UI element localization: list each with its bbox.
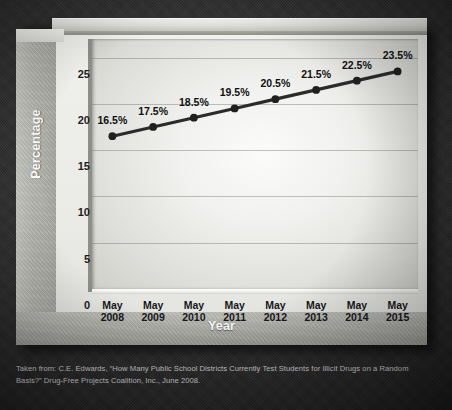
data-point-label: 22.5% [331, 60, 383, 71]
data-point-marker[interactable] [394, 68, 402, 76]
line-series [92, 39, 418, 289]
x-axis-tick-line: May [253, 299, 297, 311]
data-point-marker[interactable] [312, 86, 320, 94]
y-axis-tick-label: 20 [60, 115, 90, 126]
data-point-label: 21.5% [290, 69, 342, 80]
data-point-marker[interactable] [190, 114, 198, 122]
data-point-label: 23.5% [372, 50, 418, 61]
data-point-label: 19.5% [209, 87, 261, 98]
data-point-marker[interactable] [231, 105, 239, 113]
data-point-label: 20.5% [249, 78, 301, 89]
x-axis-tick-line: May [131, 299, 175, 311]
data-point-label: 17.5% [127, 106, 179, 117]
x-axis-title: Year [16, 319, 427, 333]
frame-left-column: Percentage [16, 42, 56, 312]
x-axis-tick-line: May [213, 299, 257, 311]
data-point-marker[interactable] [271, 95, 279, 103]
y-axis-title: Percentage [29, 84, 43, 204]
data-point-label: 18.5% [168, 97, 220, 108]
y-axis-tick-label: 5 [60, 254, 90, 265]
x-axis-tick-line: May [294, 299, 338, 311]
y-axis-tick-label: 10 [60, 207, 90, 218]
chart-card: Percentage 16.5%17.5%18.5%19.5%20.5%21.5… [16, 18, 427, 345]
data-point-label: 16.5% [92, 115, 138, 126]
frame-top-bevel [52, 18, 427, 31]
screenshot-root: Percentage 16.5%17.5%18.5%19.5%20.5%21.5… [0, 0, 452, 410]
plot-area: 16.5%17.5%18.5%19.5%20.5%21.5%22.5%23.5% [92, 39, 418, 289]
x-axis-baseline [92, 289, 418, 294]
x-axis-tick-line: May [172, 299, 216, 311]
x-axis-tick-line: May [335, 299, 379, 311]
y-axis-tick-label: 15 [60, 161, 90, 172]
data-point-marker[interactable] [149, 123, 157, 131]
y-axis-ticks: 2520151050 [56, 35, 90, 295]
y-axis-tick-label: 25 [60, 69, 90, 80]
data-point-marker[interactable] [108, 132, 116, 140]
source-caption: Taken from: C.E. Edwards, “How Many Publ… [16, 363, 434, 386]
x-axis-tick-line: May [376, 299, 420, 311]
data-point-marker[interactable] [353, 77, 361, 85]
x-axis-tick-line: May [90, 299, 134, 311]
y-axis-tick-label: 0 [60, 300, 90, 311]
